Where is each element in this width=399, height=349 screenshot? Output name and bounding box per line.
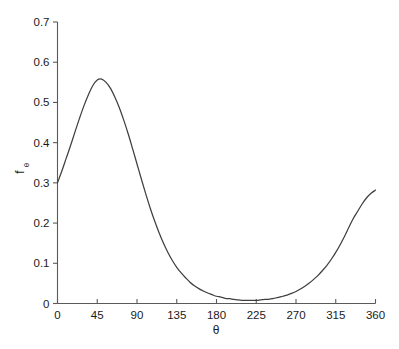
y-tick-label: 0.5 (34, 96, 50, 108)
y-tick-label: 0.2 (34, 217, 50, 229)
y-tick-label: 0.1 (34, 257, 50, 269)
y-tick-label: 0.3 (34, 177, 50, 189)
x-tick-label: 45 (91, 309, 104, 321)
x-tick-label: 360 (366, 309, 385, 321)
y-axis-title-subscript: θ (22, 162, 31, 167)
x-axis-title: θ (213, 323, 220, 337)
x-tick-label: 225 (247, 309, 266, 321)
y-tick-label: 0.4 (34, 137, 51, 149)
chart-container: 00.10.20.30.40.50.60.7 04590135180225270… (0, 0, 399, 349)
y-tick-label: 0.6 (34, 56, 50, 68)
x-tick-label: 90 (131, 309, 144, 321)
y-tick-label: 0.7 (34, 16, 50, 28)
chart-background (0, 0, 399, 349)
x-tick-label: 0 (54, 309, 60, 321)
x-tick-label: 180 (207, 309, 226, 321)
y-tick-label: 0 (43, 298, 49, 310)
x-tick-label: 270 (286, 309, 305, 321)
x-tick-label: 135 (167, 309, 186, 321)
x-tick-label: 315 (326, 309, 345, 321)
line-chart-plot: 00.10.20.30.40.50.60.7 04590135180225270… (0, 0, 399, 349)
